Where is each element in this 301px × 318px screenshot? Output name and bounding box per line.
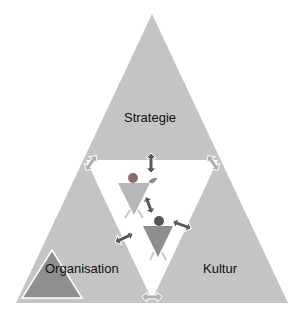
- label-strategie: Strategie: [124, 110, 176, 125]
- label-kultur: Kultur: [203, 261, 237, 276]
- label-organisation: Organisation: [45, 261, 119, 276]
